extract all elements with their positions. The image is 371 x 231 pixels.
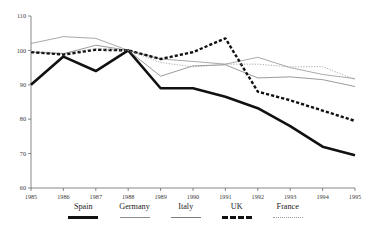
x-axis-tick-label: 1994 <box>316 193 328 199</box>
x-axis-tick-label: 1985 <box>25 193 37 199</box>
legend-item-france[interactable]: France <box>273 202 303 222</box>
x-axis-tick-label: 1991 <box>219 193 231 199</box>
chart-plot-container: 60708090100110 1985198619871988198919901… <box>0 9 371 199</box>
legend-swatch-germany <box>120 217 150 222</box>
y-axis-tick-label: 70 <box>20 150 26 157</box>
x-axis-tick-label: 1988 <box>122 193 134 199</box>
chart-legend: SpainGermanyItalyUKFrance <box>0 200 371 231</box>
x-axis-tick-label: 1990 <box>187 193 199 199</box>
y-axis-tick-label: 60 <box>20 184 26 191</box>
legend-swatch-spain <box>68 216 98 223</box>
legend-label: Italy <box>178 202 193 212</box>
legend-label: UK <box>231 202 243 212</box>
clipped-header-text <box>0 0 371 9</box>
y-axis-tick-label: 100 <box>17 47 26 54</box>
chart-page: 60708090100110 1985198619871988198919901… <box>0 0 371 231</box>
x-axis-tick-label: 1987 <box>90 193 102 199</box>
chart-series-lines <box>31 37 355 156</box>
chart-axes <box>31 16 355 188</box>
legend-label: Germany <box>119 202 149 212</box>
y-axis-tick-label: 110 <box>17 12 26 19</box>
legend-swatch-italy <box>171 217 201 222</box>
legend-item-italy[interactable]: Italy <box>171 202 201 222</box>
x-axis-tick-label: 1986 <box>57 193 69 199</box>
series-line-germany <box>31 37 355 79</box>
x-axis-tick-label: 1989 <box>154 193 166 199</box>
y-axis-ticks: 60708090100110 <box>17 12 31 191</box>
y-axis-tick-label: 90 <box>20 81 26 88</box>
x-axis-tick-label: 1992 <box>252 193 264 199</box>
legend-item-uk[interactable]: UK <box>222 202 252 223</box>
x-axis-tick-label: 1993 <box>284 193 296 199</box>
legend-swatch-france <box>273 217 303 222</box>
legend-label: France <box>277 202 299 212</box>
x-axis-ticks: 1985198619871988198919901991199219931994… <box>25 188 361 199</box>
legend-swatch-uk <box>222 216 252 223</box>
legend-label: Spain <box>74 202 93 212</box>
legend-item-germany[interactable]: Germany <box>119 202 149 222</box>
legend-item-spain[interactable]: Spain <box>68 202 98 223</box>
line-chart: 60708090100110 1985198619871988198919901… <box>0 9 371 199</box>
x-axis-tick-label: 1995 <box>349 193 361 199</box>
y-axis-tick-label: 80 <box>20 115 26 122</box>
